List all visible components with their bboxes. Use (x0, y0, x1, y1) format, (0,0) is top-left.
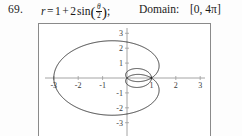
polar-plot: -3-2-1123321-1-2-3 (39, 24, 210, 136)
x-tick-label-2: 2 (174, 81, 178, 90)
fraction-numerator-theta: θ (96, 3, 102, 11)
domain-value: [0, 4π] (190, 3, 221, 15)
x-tick-label-3: 3 (198, 81, 202, 90)
theta-over-two-fraction: θ2 (95, 3, 102, 19)
sine-function-name: sin (76, 5, 90, 17)
y-tick-label--3: -3 (116, 119, 123, 128)
equals-sign: = (45, 5, 55, 17)
plot-frame: -3-2-1123321-1-2-3 (38, 23, 211, 136)
y-tick-label-1: 1 (119, 59, 123, 68)
problem-statement: 69. r=1+2sin(θ2); Domain: [0, 4π] (0, 2, 242, 20)
y-tick-label--1: -1 (116, 89, 123, 98)
textbook-problem-figure: 69. r=1+2sin(θ2); Domain: [0, 4π] -3-2-1… (0, 0, 242, 136)
y-tick-label-2: 2 (119, 44, 123, 53)
polar-equation: r=1+2sin(θ2); (41, 3, 110, 19)
fraction-denominator-two: 2 (96, 11, 102, 20)
x-tick-label--2: -2 (75, 81, 82, 90)
y-tick-label-3: 3 (119, 29, 123, 38)
axes-group (45, 28, 205, 136)
semicolon: ; (107, 5, 110, 17)
equation-term-one: 1 (55, 5, 61, 17)
y-tick-label--2: -2 (116, 104, 123, 113)
x-tick-label--1: -1 (99, 81, 106, 90)
problem-number: 69. (8, 3, 23, 15)
domain-label: Domain: (139, 3, 179, 15)
plus-sign: + (61, 5, 71, 17)
